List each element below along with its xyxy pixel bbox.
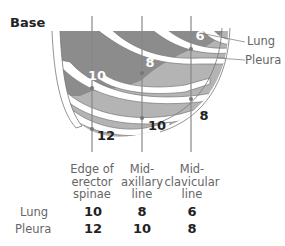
table-lung-erector: 10 (78, 204, 108, 219)
pleura-rib-axillary: 10 (142, 118, 172, 133)
pleura-rib-clavicular: 8 (189, 108, 219, 123)
lung-rib-axillary: 8 (135, 55, 165, 70)
row-label-pleura: Pleura (15, 222, 51, 236)
lung-rib-clavicular: 6 (185, 28, 215, 43)
lung-rib-erector: 10 (82, 68, 112, 83)
lung-pleura-base-diagram (0, 0, 285, 160)
pleura-rib-erector: 12 (91, 128, 121, 143)
row-label-lung: Lung (20, 205, 48, 219)
table-lung-clavicular: 6 (177, 204, 207, 219)
table-pleura-axillary: 10 (127, 221, 157, 236)
table-lung-axillary: 8 (127, 204, 157, 219)
column-label-mid-clavicular: Mid- clavicular line (157, 163, 227, 201)
callout-pleura: Pleura (245, 53, 281, 67)
callout-lung: Lung (247, 34, 275, 48)
table-pleura-erector: 12 (78, 221, 108, 236)
table-pleura-clavicular: 8 (177, 221, 207, 236)
